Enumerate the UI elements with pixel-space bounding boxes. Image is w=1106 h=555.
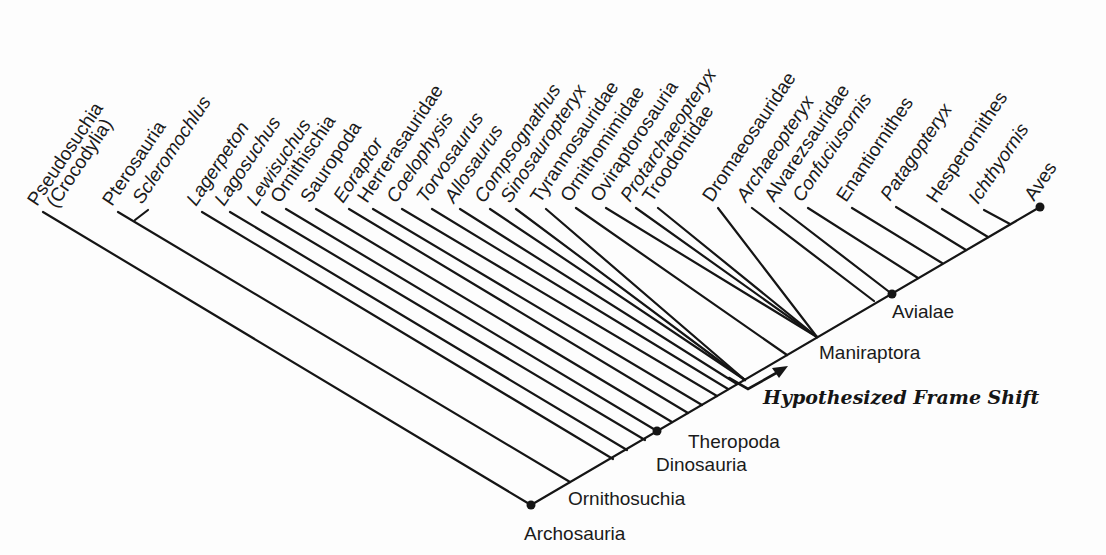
branch-ornithischia — [286, 209, 657, 431]
branch-scleromochlus — [135, 210, 148, 220]
branch-ichthyornis — [984, 210, 1010, 224]
branch-pseudosuchia — [43, 212, 531, 505]
branch-sauropoda — [316, 209, 672, 422]
node-label-avialae: Avialae — [892, 301, 954, 322]
branch-enantiornithes — [852, 208, 942, 263]
cladogram-figure: Pseudosuchia(Crocodylia)PterosauriaScler… — [0, 0, 1106, 555]
branch-sinosauropteryx — [516, 209, 745, 380]
branch-troodontidae — [658, 208, 817, 337]
node-dot-aves — [1036, 203, 1045, 212]
branch-eoraptor — [349, 209, 688, 413]
node-label-ornithosuchia: Ornithosuchia — [568, 488, 686, 509]
branch-allosaurus — [460, 209, 737, 384]
branch-torvosaurus — [432, 209, 728, 389]
node-dot-archosauria — [527, 501, 536, 510]
branch-patagopteryx — [896, 207, 966, 250]
node-label-archosauria: Archosauria — [524, 523, 626, 544]
spine-branch — [531, 207, 1040, 505]
node-dot-dinosauria — [653, 427, 662, 436]
taxon-label-aves: Aves — [1020, 158, 1061, 204]
branch-archaeopteryx — [752, 208, 874, 301]
node-label-theropoda: Theropoda — [688, 431, 780, 452]
frame-shift-label: Hypothesized Frame Shift — [762, 386, 1040, 408]
node-label-dinosauria: Dinosauria — [656, 454, 747, 475]
branch-coelophysis — [402, 209, 717, 396]
node-dot-avialae — [888, 290, 897, 299]
branch-lewisuchus — [262, 212, 645, 440]
branch-oviraptorosauria — [606, 208, 817, 337]
cladogram-svg: Pseudosuchia(Crocodylia)PterosauriaScler… — [0, 0, 1106, 555]
branch-hesperornithes — [942, 209, 988, 237]
taxon-labels: Pseudosuchia(Crocodylia)PterosauriaScler… — [23, 64, 1061, 212]
node-label-maniraptora: Maniraptora — [819, 342, 921, 363]
